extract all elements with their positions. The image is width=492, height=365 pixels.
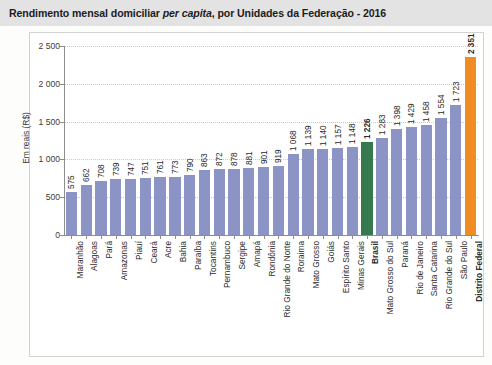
bar-column[interactable]: 708: [95, 46, 106, 235]
bar-column[interactable]: 1 554: [435, 46, 446, 235]
bar-series: 5756627087397477517617737908638728788819…: [64, 46, 478, 235]
bar-column[interactable]: 1 068: [288, 46, 299, 235]
bar-column[interactable]: 872: [214, 46, 225, 235]
bar-column[interactable]: 751: [140, 46, 151, 235]
x-tick-label: Santa Catarina: [429, 241, 439, 296]
bar-value-label: 1 429: [407, 103, 416, 124]
x-tick-mark: [323, 235, 324, 239]
bar[interactable]: [273, 166, 284, 235]
bar[interactable]: [258, 167, 269, 235]
bar-value-label: 2 351: [466, 34, 475, 55]
bar-column[interactable]: 575: [66, 46, 77, 235]
bar-column[interactable]: 1 140: [317, 46, 328, 235]
page-title: Rendimento mensal domiciliar per capita,…: [0, 7, 386, 19]
x-tick-mark: [145, 235, 146, 239]
bar[interactable]: [450, 105, 461, 235]
bar[interactable]: [110, 179, 121, 235]
bar-column[interactable]: 863: [199, 46, 210, 235]
bar-column[interactable]: 790: [184, 46, 195, 235]
x-tick-mark: [397, 235, 398, 239]
bar-value-label: 1 140: [318, 125, 327, 146]
x-tick-label: Paraná: [400, 241, 410, 268]
bar[interactable]: [302, 149, 313, 235]
bar[interactable]: [140, 178, 151, 235]
bar-column[interactable]: 2 351: [465, 46, 476, 235]
bar-column[interactable]: 761: [154, 46, 165, 235]
x-tick-label: Pará: [104, 241, 114, 259]
x-tick-mark: [175, 235, 176, 239]
bar-column[interactable]: 1 157: [332, 46, 343, 235]
bar[interactable]: [184, 175, 195, 235]
bar-column[interactable]: 747: [125, 46, 136, 235]
x-tick-mark: [441, 235, 442, 239]
bar[interactable]: [125, 179, 136, 235]
bar[interactable]: [169, 177, 180, 235]
x-tick-mark: [411, 235, 412, 239]
x-tick-mark: [471, 235, 472, 239]
bar[interactable]: [154, 177, 165, 235]
x-tick-mark: [86, 235, 87, 239]
x-tick-label: Rio de Janeiro: [415, 241, 425, 295]
x-tick-mark: [338, 235, 339, 239]
bar-column[interactable]: 1 429: [406, 46, 417, 235]
bar-value-label: 708: [96, 165, 105, 179]
bar-value-label: 901: [259, 150, 268, 164]
bar-column[interactable]: 739: [110, 46, 121, 235]
x-tick-label: Mato Grosso do Sul: [385, 241, 395, 314]
bar-column[interactable]: 662: [81, 46, 92, 235]
y-axis-ticks: 05001 0001 5002 0002 500: [28, 46, 60, 235]
bar[interactable]: [228, 169, 239, 235]
bar-value-label: 863: [200, 153, 209, 167]
x-tick-label: Ceará: [149, 241, 159, 264]
bar-column[interactable]: 1 723: [450, 46, 461, 235]
bar-column[interactable]: 1 139: [302, 46, 313, 235]
bar-column[interactable]: 1 148: [347, 46, 358, 235]
x-tick-label: Espírito Santo: [341, 241, 351, 293]
bar-value-label: 872: [215, 152, 224, 166]
x-tick-mark: [264, 235, 265, 239]
x-tick-mark: [204, 235, 205, 239]
bar[interactable]: [347, 147, 358, 235]
x-tick-label: Roraima: [296, 241, 306, 272]
bar-column[interactable]: 919: [273, 46, 284, 235]
bar-column[interactable]: 878: [228, 46, 239, 235]
bar[interactable]: [406, 127, 417, 235]
bar[interactable]: [391, 129, 402, 235]
title-part-1: Rendimento mensal domiciliar: [9, 7, 163, 19]
bar-value-label: 919: [274, 149, 283, 163]
bar[interactable]: [243, 168, 254, 235]
y-tick-label: 2 000: [38, 79, 60, 89]
chart-title-band: Rendimento mensal domiciliar per capita,…: [0, 0, 492, 26]
bar[interactable]: [288, 154, 299, 235]
bar-column[interactable]: 1 283: [376, 46, 387, 235]
x-tick-mark: [382, 235, 383, 239]
bar[interactable]: [361, 142, 372, 235]
bar-value-label: 1 226: [363, 119, 372, 140]
bar[interactable]: [332, 148, 343, 235]
x-tick-mark: [219, 235, 220, 239]
bar[interactable]: [317, 149, 328, 235]
bar-column[interactable]: 1 398: [391, 46, 402, 235]
bar-column[interactable]: 881: [243, 46, 254, 235]
bar-column[interactable]: 1 458: [421, 46, 432, 235]
bar-value-label: 747: [126, 162, 135, 176]
bar-column[interactable]: 773: [169, 46, 180, 235]
x-tick-mark: [426, 235, 427, 239]
y-tick-label: 500: [46, 192, 60, 202]
bar[interactable]: [376, 138, 387, 235]
x-tick-label: Rio Grande do Norte: [282, 241, 292, 318]
bar[interactable]: [435, 118, 446, 235]
bar-column[interactable]: 901: [258, 46, 269, 235]
bar[interactable]: [95, 181, 106, 235]
x-tick-mark: [249, 235, 250, 239]
x-tick-label: Tocantins: [208, 241, 218, 276]
x-tick-mark: [456, 235, 457, 239]
bar[interactable]: [66, 192, 77, 235]
bar[interactable]: [465, 57, 476, 235]
bar[interactable]: [199, 170, 210, 235]
bar-column[interactable]: 1 226: [361, 46, 372, 235]
bar[interactable]: [214, 169, 225, 235]
bar[interactable]: [421, 125, 432, 235]
x-tick-label: Brasil: [370, 241, 380, 264]
bar[interactable]: [81, 185, 92, 235]
